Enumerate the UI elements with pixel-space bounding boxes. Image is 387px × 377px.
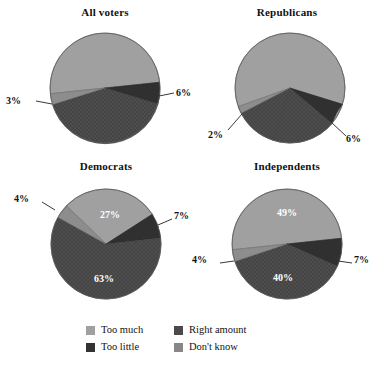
legend-swatch-dont-know [174, 343, 183, 352]
chart-independents: Independents 49% 40% [190, 160, 384, 315]
legend-swatch-too-little [86, 343, 95, 352]
pie-democrats: 27% 63% [8, 178, 204, 313]
callout-republicans-left: 2% [208, 129, 223, 140]
inner-label-independents-too-much: 49% [277, 207, 297, 218]
inner-label-democrats-too-little: 63% [94, 273, 114, 284]
chart-all-voters: All voters [6, 6, 204, 156]
legend-label-dont-know: Don't know [189, 342, 238, 353]
callout-independents-right: 7% [354, 254, 369, 265]
pie-chart-figure: All voters [0, 0, 387, 377]
legend: Too much Right amount Too little Don't k… [86, 322, 326, 356]
callout-democrats-left: 4% [14, 193, 29, 204]
legend-item-right-amount: Right amount [174, 325, 326, 336]
chart-republicans: Republicans [190, 6, 384, 156]
inner-label-democrats-too-much: 27% [100, 209, 120, 220]
pie-all-voters [6, 26, 204, 156]
legend-label-right-amount: Right amount [189, 325, 246, 336]
callout-all-voters-left: 3% [6, 95, 21, 106]
legend-item-too-little: Too little [86, 342, 174, 353]
chart-title-democrats: Democrats [8, 160, 204, 172]
chart-title-republicans: Republicans [190, 6, 384, 18]
legend-label-too-little: Too little [101, 342, 139, 353]
callout-independents-left: 4% [192, 254, 207, 265]
inner-label-independents-too-little: 40% [273, 272, 293, 283]
callout-democrats-right: 7% [174, 210, 189, 221]
chart-democrats: Democrats 27% 63% [8, 160, 204, 315]
chart-title-all-voters: All voters [6, 6, 204, 18]
callout-republicans-right: 6% [346, 133, 361, 144]
legend-swatch-right-amount [174, 326, 183, 335]
legend-item-too-much: Too much [86, 325, 174, 336]
chart-title-independents: Independents [190, 160, 384, 172]
pie-independents: 49% 40% [190, 178, 384, 313]
callout-all-voters-right: 6% [176, 87, 191, 98]
legend-item-dont-know: Don't know [174, 342, 326, 353]
legend-label-too-much: Too much [101, 325, 143, 336]
legend-swatch-too-much [86, 326, 95, 335]
